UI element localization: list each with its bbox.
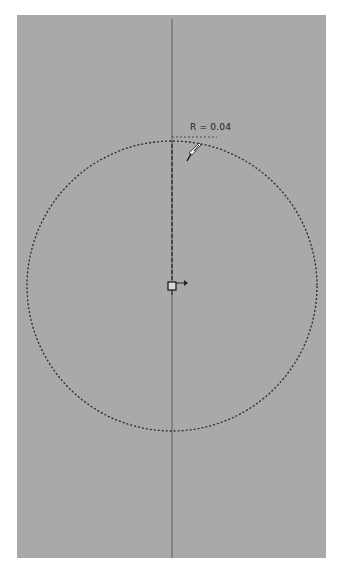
sketch-viewport[interactable]: R = 0.04 [17, 15, 326, 558]
center-point-icon[interactable] [168, 280, 188, 295]
sketch-drawing[interactable] [17, 15, 326, 558]
sketch-pointer-icon [187, 143, 201, 161]
radius-dimension-label[interactable]: R = 0.04 [190, 122, 231, 132]
